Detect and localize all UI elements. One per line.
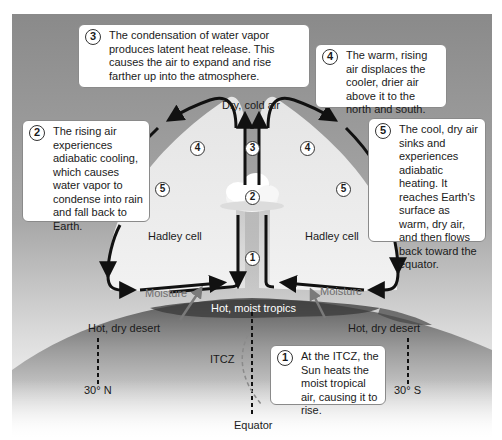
callout-3-text: The condensation of water vapor produces…	[109, 29, 275, 82]
hot-moist-tropics-label: Hot, moist tropics	[211, 302, 296, 314]
hadley-cell-diagram: 3 The condensation of water vapor produc…	[0, 0, 502, 440]
moisture-right-label: Moisture	[320, 285, 362, 297]
marker-4-left: 4	[190, 141, 205, 156]
callout-4-text: The warm, rising air displaces the coole…	[346, 49, 427, 115]
equator-label: Equator	[234, 419, 273, 431]
hadley-cell-right-label: Hadley cell	[305, 230, 359, 242]
dry-cold-air-label: Dry, cold air	[222, 99, 280, 111]
step-3-badge: 3	[85, 29, 101, 45]
hadley-cell-left-label: Hadley cell	[148, 230, 202, 242]
callout-2-text: The rising air experiences adiabatic coo…	[53, 125, 143, 232]
itcz-label: ITCZ	[210, 353, 234, 365]
step-1-badge: 1	[277, 350, 293, 366]
marker-5-right: 5	[336, 182, 351, 197]
step-4-badge: 4	[322, 49, 338, 65]
callout-3: 3 The condensation of water vapor produc…	[78, 24, 310, 88]
callout-5: 5 The cool, dry air sinks and experience…	[368, 118, 486, 242]
marker-1: 1	[245, 251, 260, 266]
callout-4: 4 The warm, rising air displaces the coo…	[315, 44, 447, 108]
lat-30s-label: 30° S	[394, 384, 421, 396]
marker-4-right: 4	[300, 141, 315, 156]
marker-3: 3	[245, 141, 260, 156]
hot-dry-desert-left-label: Hot, dry desert	[88, 322, 160, 334]
step-2-badge: 2	[29, 125, 45, 141]
callout-5-text: The cool, dry air sinks and experiences …	[399, 123, 478, 270]
marker-5-left: 5	[155, 182, 170, 197]
callout-1: 1 At the ITCZ, the Sun heats the moist t…	[270, 345, 386, 405]
marker-2: 2	[245, 190, 260, 205]
callout-2: 2 The rising air experiences adiabatic c…	[22, 120, 150, 222]
lat-30n-label: 30° N	[84, 384, 112, 396]
moisture-left-label: Moisture	[145, 287, 187, 299]
hot-dry-desert-right-label: Hot, dry desert	[348, 322, 420, 334]
step-5-badge: 5	[375, 123, 391, 139]
